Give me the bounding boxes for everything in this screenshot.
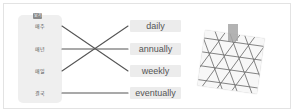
english-word-daily[interactable]: daily (130, 20, 181, 32)
english-word-eventually[interactable]: eventually (130, 87, 181, 99)
english-word-weekly[interactable]: weekly (130, 65, 181, 77)
tape-icon (228, 24, 238, 41)
english-word-annually[interactable]: annually (130, 43, 181, 55)
